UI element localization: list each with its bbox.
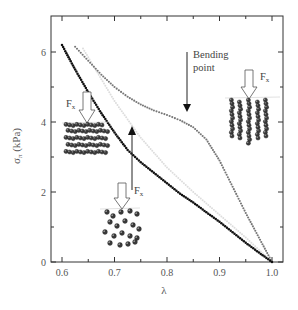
y-tick-label: 6 xyxy=(41,47,46,58)
x-tick-label: 0.6 xyxy=(56,267,69,278)
bending-label-line1: Bending xyxy=(193,49,229,60)
force-arrow-icon xyxy=(241,70,257,99)
force-arrow-icon xyxy=(114,183,130,209)
y-tick-label: 4 xyxy=(41,117,46,128)
x-tick-label: 0.7 xyxy=(108,267,121,278)
force-arrow-icon xyxy=(79,92,95,123)
chart: 0.60.70.80.91.0 0246 λ σπ (kPa) Bending … xyxy=(0,0,298,310)
x-tick-label: 0.8 xyxy=(161,267,174,278)
y-axis-label: σπ (kPa) xyxy=(10,128,24,164)
bending-arrow-head-icon xyxy=(183,104,191,112)
y-axis-label-unit: (kPa) xyxy=(10,128,23,155)
inset-vertical-chains: Fx xyxy=(225,70,280,145)
x-tick-label: 0.9 xyxy=(213,267,226,278)
bending-label-line2: point xyxy=(193,62,215,73)
particle-chains-vertical xyxy=(229,98,268,145)
force-label: Fx xyxy=(66,98,76,111)
x-axis-ticks: 0.60.70.80.91.0 xyxy=(56,16,279,278)
force-label: Fx xyxy=(260,71,270,84)
particles-random xyxy=(103,209,142,248)
particle-chains-horizontal xyxy=(64,122,110,154)
x-axis-label: λ xyxy=(161,284,167,296)
y-tick-label: 0 xyxy=(41,257,46,268)
inset-horizontal-chains: Fx xyxy=(62,92,110,155)
series-faint-gray-curve xyxy=(82,48,273,264)
x-tick-label: 1.0 xyxy=(266,267,279,278)
force-label: Fx xyxy=(134,185,144,198)
y-tick-label: 2 xyxy=(41,187,46,198)
inset-random-particles: Fx xyxy=(100,183,144,247)
bending-point-annotation: Bending point xyxy=(183,49,229,112)
